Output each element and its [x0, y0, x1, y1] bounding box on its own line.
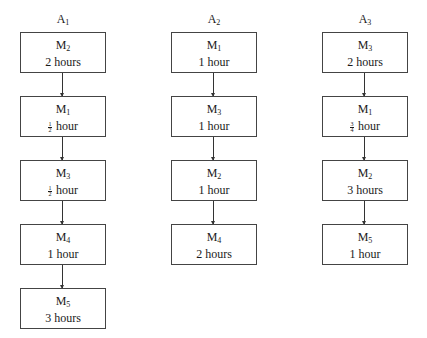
arrow-down-icon	[62, 137, 63, 160]
duration-label: 34 hour	[323, 119, 407, 133]
arrow-down-icon	[364, 73, 365, 96]
arrow-down-icon	[213, 137, 214, 160]
step-box: M3 12 hour	[20, 160, 106, 201]
step-box: M1 1 hour	[171, 32, 257, 73]
fraction: 12	[48, 122, 52, 133]
fraction: 34	[350, 122, 354, 133]
column-title-a2: A2	[171, 12, 257, 30]
machine-label: M1	[172, 39, 256, 55]
duration-label: 3 hours	[323, 183, 407, 197]
step-box: M5 3 hours	[20, 288, 106, 329]
duration-label: 3 hours	[21, 311, 105, 325]
arrow-down-icon	[364, 201, 365, 224]
duration-label: 12 hour	[21, 119, 105, 133]
machine-label: M1	[21, 103, 105, 119]
step-box: M4 2 hours	[171, 224, 257, 265]
step-box: M5 1 hour	[322, 224, 408, 265]
arrow-down-icon	[213, 201, 214, 224]
machine-label: M1	[323, 103, 407, 119]
duration-label: 1 hour	[323, 247, 407, 261]
column-title-a1: A1	[20, 12, 106, 30]
machine-label: M5	[323, 231, 407, 247]
step-box: M2 2 hours	[20, 32, 106, 73]
duration-label: 1 hour	[172, 119, 256, 133]
duration-label: 1 hour	[172, 55, 256, 69]
step-box: M3 1 hour	[171, 96, 257, 137]
machine-label: M4	[21, 231, 105, 247]
duration-label: 12 hour	[21, 183, 105, 197]
step-box: M2 1 hour	[171, 160, 257, 201]
column-title-a3: A3	[322, 12, 408, 30]
machine-label: M2	[172, 167, 256, 183]
machine-label: M2	[21, 39, 105, 55]
arrow-down-icon	[62, 201, 63, 224]
step-box: M1 34 hour	[322, 96, 408, 137]
duration-label: 2 hours	[323, 55, 407, 69]
fraction: 12	[48, 186, 52, 197]
arrow-down-icon	[62, 265, 63, 288]
arrow-down-icon	[213, 73, 214, 96]
arrow-down-icon	[364, 137, 365, 160]
machine-label: M4	[172, 231, 256, 247]
machine-label: M5	[21, 295, 105, 311]
machine-label: M2	[323, 167, 407, 183]
duration-label: 2 hours	[172, 247, 256, 261]
machine-label: M3	[21, 167, 105, 183]
machine-label: M3	[323, 39, 407, 55]
step-box: M2 3 hours	[322, 160, 408, 201]
step-box: M3 2 hours	[322, 32, 408, 73]
step-box: M4 1 hour	[20, 224, 106, 265]
duration-label: 1 hour	[21, 247, 105, 261]
duration-label: 1 hour	[172, 183, 256, 197]
arrow-down-icon	[62, 73, 63, 96]
machine-label: M3	[172, 103, 256, 119]
step-box: M1 12 hour	[20, 96, 106, 137]
duration-label: 2 hours	[21, 55, 105, 69]
